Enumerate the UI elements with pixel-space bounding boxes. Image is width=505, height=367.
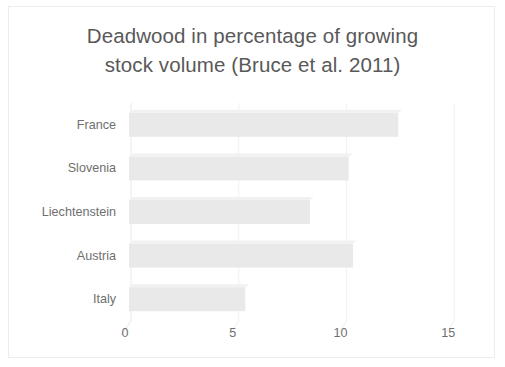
bar[interactable]	[129, 287, 245, 311]
bar-top-face	[129, 110, 402, 113]
bar[interactable]	[129, 113, 398, 137]
category-label: Italy	[93, 292, 116, 306]
bar[interactable]	[129, 200, 310, 224]
chart-container: Deadwood in percentage of growing stock …	[8, 6, 495, 358]
x-tick-label: 15	[441, 326, 455, 340]
bars-layer	[9, 7, 496, 359]
category-label: France	[77, 118, 116, 132]
bar[interactable]	[129, 244, 353, 268]
x-tick-label: 5	[229, 326, 236, 340]
bar-top-face	[129, 153, 353, 156]
plot-area: FranceSloveniaLiechtensteinAustriaItaly …	[9, 7, 496, 359]
bar-top-face	[129, 197, 314, 200]
x-tick-label: 10	[333, 326, 347, 340]
bar-top-face	[129, 241, 357, 244]
category-label: Austria	[77, 249, 116, 263]
bar[interactable]	[129, 156, 349, 180]
x-tick-label: 0	[121, 326, 128, 340]
bar-top-face	[129, 284, 249, 287]
category-label: Liechtenstein	[42, 205, 116, 219]
category-label: Slovenia	[68, 161, 116, 175]
